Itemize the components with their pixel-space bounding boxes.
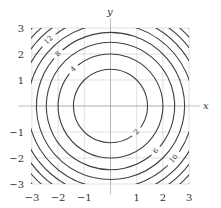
contour-label-10: 10 <box>168 153 180 165</box>
y-tick-label: 2 <box>18 49 24 60</box>
contour-plot: 24681012 −3−2−1123321−1−2−3 x y <box>0 0 221 208</box>
x-tick-label: 1 <box>134 192 140 203</box>
contour-label-4: 4 <box>69 64 78 73</box>
y-axis-label: y <box>106 6 113 17</box>
y-tick-label: −3 <box>9 179 24 190</box>
y-tick-label: −2 <box>9 153 24 164</box>
x-tick-label: −1 <box>77 192 92 203</box>
x-axis-label: x <box>203 100 209 111</box>
contour-label-8: 8 <box>54 50 63 59</box>
x-tick-label: −2 <box>51 192 66 203</box>
y-tick-label: 1 <box>18 75 24 86</box>
y-tick-label: 3 <box>18 23 24 34</box>
x-tick-label: 2 <box>160 192 166 203</box>
contour-label-2: 2 <box>132 128 141 137</box>
y-tick-label: −1 <box>9 127 24 138</box>
contour-label-6: 6 <box>151 146 160 155</box>
contour-label-12: 12 <box>43 34 55 46</box>
x-tick-label: 3 <box>186 192 192 203</box>
x-tick-label: −3 <box>25 192 40 203</box>
